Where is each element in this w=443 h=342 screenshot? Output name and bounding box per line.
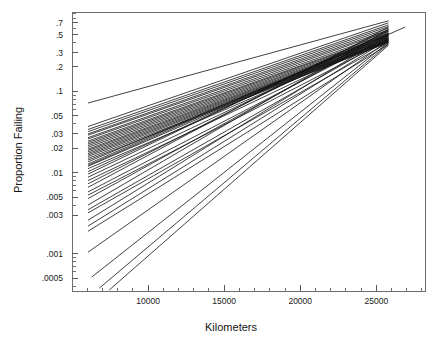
y-tick-label: .3: [56, 48, 63, 58]
data-line: [88, 21, 389, 103]
x-axis-ticks: [87, 285, 422, 291]
x-tick-label: 25000: [364, 296, 388, 306]
y-tick-label: .02: [51, 143, 63, 153]
y-tick-label: .7: [56, 18, 63, 28]
data-line: [92, 43, 389, 278]
y-tick-label: .001: [46, 249, 63, 259]
plot-frame: [72, 12, 425, 291]
axis-frame: [72, 12, 425, 291]
y-tick-label: .1: [56, 86, 63, 96]
y-axis-title: Proportion Failing: [12, 107, 24, 193]
data-series-group: [88, 21, 405, 290]
data-line: [88, 28, 389, 134]
y-tick-label: .5: [56, 30, 63, 40]
data-line: [88, 27, 389, 187]
chart-figure: 10000150002000025000 .7.5.3.2.1.05.03.02…: [0, 0, 443, 342]
x-tick-label: 20000: [288, 296, 312, 306]
data-line: [88, 35, 389, 221]
y-axis-tick-labels: .7.5.3.2.1.05.03.02.01.005.003.001.0005: [42, 18, 64, 284]
chart-canvas: 10000150002000025000 .7.5.3.2.1.05.03.02…: [0, 0, 443, 342]
x-tick-label: 15000: [212, 296, 236, 306]
y-tick-label: .0005: [42, 273, 64, 283]
data-line: [88, 29, 389, 205]
data-line: [88, 38, 389, 209]
data-line: [88, 39, 389, 169]
data-line: [88, 35, 389, 141]
y-tick-label: .005: [46, 192, 63, 202]
y-tick-label: .01: [51, 168, 63, 178]
y-tick-label: .05: [51, 111, 63, 121]
data-line: [88, 23, 389, 127]
data-line: [88, 40, 389, 152]
y-tick-label: .2: [56, 62, 63, 72]
y-tick-label: .003: [46, 210, 63, 220]
y-tick-label: .03: [51, 129, 63, 139]
data-line: [88, 33, 389, 139]
y-axis-ticks: [72, 14, 78, 286]
x-tick-label: 10000: [136, 296, 160, 306]
data-line: [88, 30, 389, 135]
x-axis-tick-labels: 10000150002000025000: [136, 296, 388, 306]
x-axis-title: Kilometers: [205, 321, 257, 333]
